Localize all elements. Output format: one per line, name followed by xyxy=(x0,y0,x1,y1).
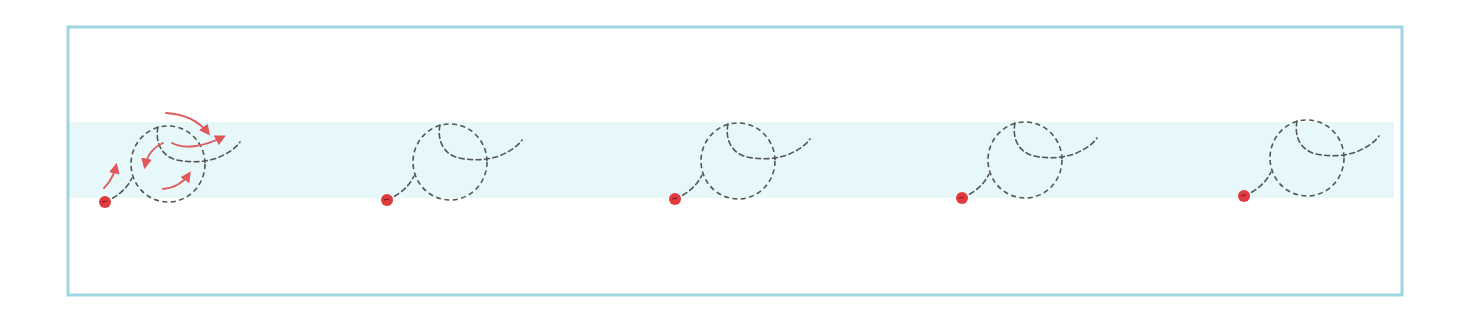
diagram-canvas xyxy=(0,0,1475,323)
highlight-band xyxy=(69,122,1394,198)
